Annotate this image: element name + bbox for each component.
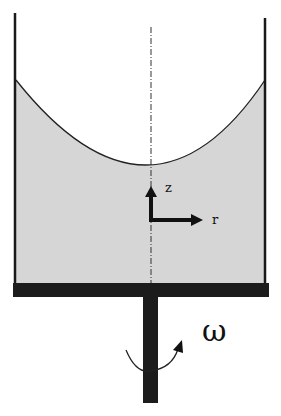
liquid-body [16,80,265,284]
rotating-container-diagram: z r ω [0,0,281,416]
omega-label: ω [202,313,226,348]
r-axis-label: r [212,212,219,227]
base-plate [13,283,269,297]
z-axis-label: z [165,180,172,195]
drive-shaft [143,296,158,403]
